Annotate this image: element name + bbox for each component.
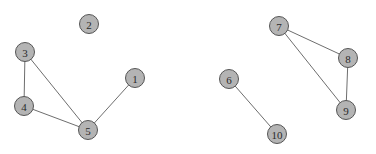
node-6[interactable]: 6 [220, 70, 239, 89]
edge-7-8 [279, 26, 348, 58]
node-10[interactable]: 10 [268, 125, 287, 144]
node-label: 8 [345, 53, 351, 65]
node-9[interactable]: 9 [337, 101, 356, 120]
node-label: 7 [276, 21, 282, 33]
edge-6-10 [229, 79, 277, 134]
node-label: 4 [21, 101, 27, 113]
node-label: 5 [85, 125, 91, 137]
node-label: 9 [343, 105, 349, 117]
node-3[interactable]: 3 [16, 43, 35, 62]
edge-7-9 [279, 26, 346, 110]
edge-1-5 [88, 78, 135, 130]
node-2[interactable]: 2 [80, 15, 99, 34]
edge-layer [24, 26, 348, 134]
node-label: 10 [272, 129, 284, 141]
node-label: 2 [86, 19, 92, 31]
node-8[interactable]: 8 [339, 49, 358, 68]
node-label: 6 [226, 74, 232, 86]
node-1[interactable]: 1 [126, 69, 145, 88]
node-7[interactable]: 7 [270, 17, 289, 36]
network-graph: 12345678910 [0, 0, 376, 154]
node-layer: 12345678910 [15, 15, 358, 144]
node-label: 1 [132, 73, 138, 85]
node-4[interactable]: 4 [15, 97, 34, 116]
node-label: 3 [22, 47, 28, 59]
node-5[interactable]: 5 [79, 121, 98, 140]
